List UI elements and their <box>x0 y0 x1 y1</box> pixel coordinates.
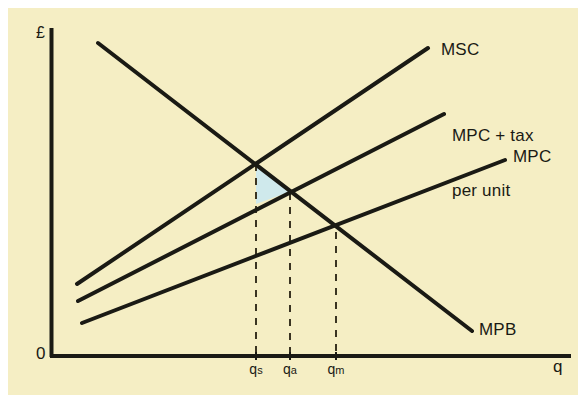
curve-label-mpb: MPB <box>479 321 516 339</box>
curve-msc <box>77 48 428 284</box>
origin-label: 0 <box>36 345 45 363</box>
figure-root: £ 0 q MSC MPC + tax per unit MPC MPB qs … <box>0 0 586 412</box>
curve-label-msc: MSC <box>441 41 479 59</box>
tick-label-qs-subscript: s <box>257 364 263 376</box>
tick-label-qm: qm <box>322 362 350 377</box>
tick-label-qs: qs <box>242 362 270 377</box>
tick-label-qa-subscript: a <box>291 364 297 376</box>
x-axis-label: q <box>553 358 562 376</box>
curve-mpc-plus-tax <box>78 114 444 301</box>
tick-label-qa-letter: q <box>283 361 291 377</box>
curve-mpc <box>82 160 505 323</box>
tick-label-qs-letter: q <box>249 361 257 377</box>
curve-label-mpc-plus-tax-line2: per unit <box>452 182 534 200</box>
tick-label-qm-subscript: m <box>335 364 344 376</box>
y-axis-label: £ <box>36 24 45 41</box>
curve-mpb <box>98 43 472 331</box>
curve-label-mpc-plus-tax-line1: MPC + tax <box>452 127 534 145</box>
curve-label-mpc: MPC <box>513 148 551 166</box>
tick-label-qa: qa <box>276 362 304 377</box>
